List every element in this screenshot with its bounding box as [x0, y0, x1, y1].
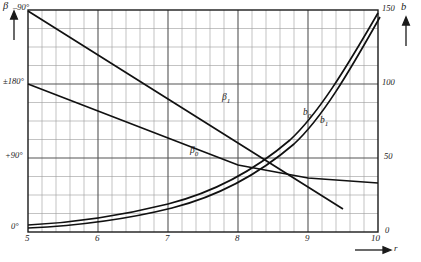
curve-label-b0: b0: [303, 108, 311, 120]
curve-label-beta1-sub: 1: [227, 97, 231, 105]
curve-label-beta0-sub: 0: [195, 150, 199, 158]
x-tick-5: 5: [25, 234, 30, 243]
x-tick-9: 9: [305, 234, 310, 243]
y-left-tick-plus90: +90°: [5, 151, 23, 160]
y-right-tick-150: 150: [382, 4, 395, 13]
x-tick-7: 7: [165, 234, 170, 243]
y-left-tick-zero: 0°: [11, 222, 19, 231]
right-axis-name: b: [401, 2, 406, 13]
curve-label-b1: b1: [320, 116, 328, 128]
x-tick-10: 10: [371, 234, 380, 243]
y-left-tick-pm180: ±180°: [3, 77, 24, 86]
y-right-tick-0: 0: [385, 226, 389, 235]
left-axis-name: β: [3, 1, 8, 12]
curve-label-b1-sub: 1: [325, 120, 329, 128]
figure-canvas: [0, 0, 421, 262]
x-axis-name: r: [394, 244, 398, 253]
y-left-tick-minus90: –90°: [13, 3, 29, 12]
curve-label-beta1: β1: [222, 93, 230, 105]
curve-label-b0-sub: 0: [308, 112, 312, 120]
x-tick-6: 6: [95, 234, 100, 243]
curve-label-beta0: β0: [190, 146, 198, 158]
x-tick-8: 8: [235, 234, 240, 243]
y-right-tick-50: 50: [384, 152, 393, 161]
y-right-tick-100: 100: [382, 78, 395, 87]
